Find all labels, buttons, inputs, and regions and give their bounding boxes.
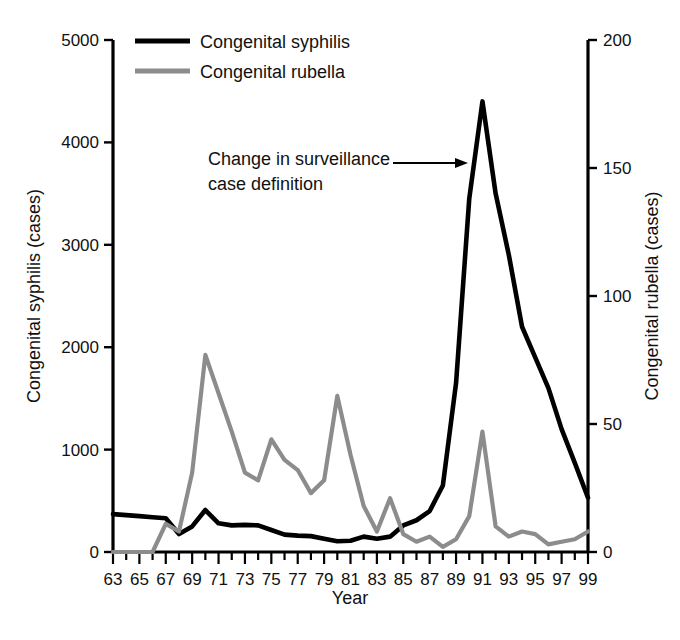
left-axis-tick-label: 4000 [61, 133, 99, 152]
right-axis-tick-label: 150 [603, 159, 631, 178]
right-axis-tick-label: 50 [603, 415, 622, 434]
x-axis-tick-label: 63 [104, 570, 123, 589]
x-axis-tick-label: 93 [499, 570, 518, 589]
annotation-line-2: case definition [208, 174, 323, 194]
x-axis-tick-label: 99 [579, 570, 598, 589]
x-axis-tick-label: 65 [130, 570, 149, 589]
right-axis-tick-label: 0 [603, 543, 612, 562]
legend-label-syphilis: Congenital syphilis [200, 32, 350, 52]
x-axis-tick-label: 73 [235, 570, 254, 589]
annotation-line-1: Change in surveillance [208, 149, 390, 169]
left-axis-tick-label: 0 [90, 543, 99, 562]
x-axis-tick-label: 91 [473, 570, 492, 589]
x-axis-tick-label: 87 [420, 570, 439, 589]
annotation-arrow-icon [393, 158, 468, 168]
x-axis-tick-label: 71 [209, 570, 228, 589]
x-axis-tick-label: 83 [367, 570, 386, 589]
chart-figure: 010002000300040005000 050100150200 63656… [0, 0, 680, 640]
x-axis-title: Year [332, 588, 368, 608]
x-axis-tick-label: 81 [341, 570, 360, 589]
left-axis-tick-label: 1000 [61, 441, 99, 460]
legend-label-rubella: Congenital rubella [200, 62, 346, 82]
left-axis-tick-label: 2000 [61, 338, 99, 357]
x-axis-ticks: 63656769717375777981838587899193959799 [104, 552, 598, 589]
left-axis-ticks: 010002000300040005000 [61, 31, 113, 562]
left-axis-tick-label: 3000 [61, 236, 99, 255]
dual-axis-line-chart: 010002000300040005000 050100150200 63656… [0, 0, 680, 640]
chart-legend: Congenital syphilis Congenital rubella [135, 32, 350, 82]
y-axis-right-title: Congenital rubella (cases) [642, 191, 662, 400]
surveillance-annotation: Change in surveillance case definition [208, 149, 468, 194]
series-line-congenital-rubella [113, 355, 588, 552]
x-axis-tick-label: 67 [156, 570, 175, 589]
x-axis-tick-label: 95 [526, 570, 545, 589]
x-axis-tick-label: 75 [262, 570, 281, 589]
x-axis-tick-label: 89 [447, 570, 466, 589]
data-series-layer [113, 101, 588, 552]
x-axis-tick-label: 85 [394, 570, 413, 589]
right-axis-tick-label: 200 [603, 31, 631, 50]
x-axis-tick-label: 97 [552, 570, 571, 589]
right-axis-tick-label: 100 [603, 287, 631, 306]
x-axis-tick-label: 77 [288, 570, 307, 589]
left-axis-tick-label: 5000 [61, 31, 99, 50]
right-axis-ticks: 050100150200 [588, 31, 631, 562]
x-axis-tick-label: 69 [183, 570, 202, 589]
y-axis-left-title: Congenital syphilis (cases) [24, 189, 44, 403]
x-axis-tick-label: 79 [315, 570, 334, 589]
